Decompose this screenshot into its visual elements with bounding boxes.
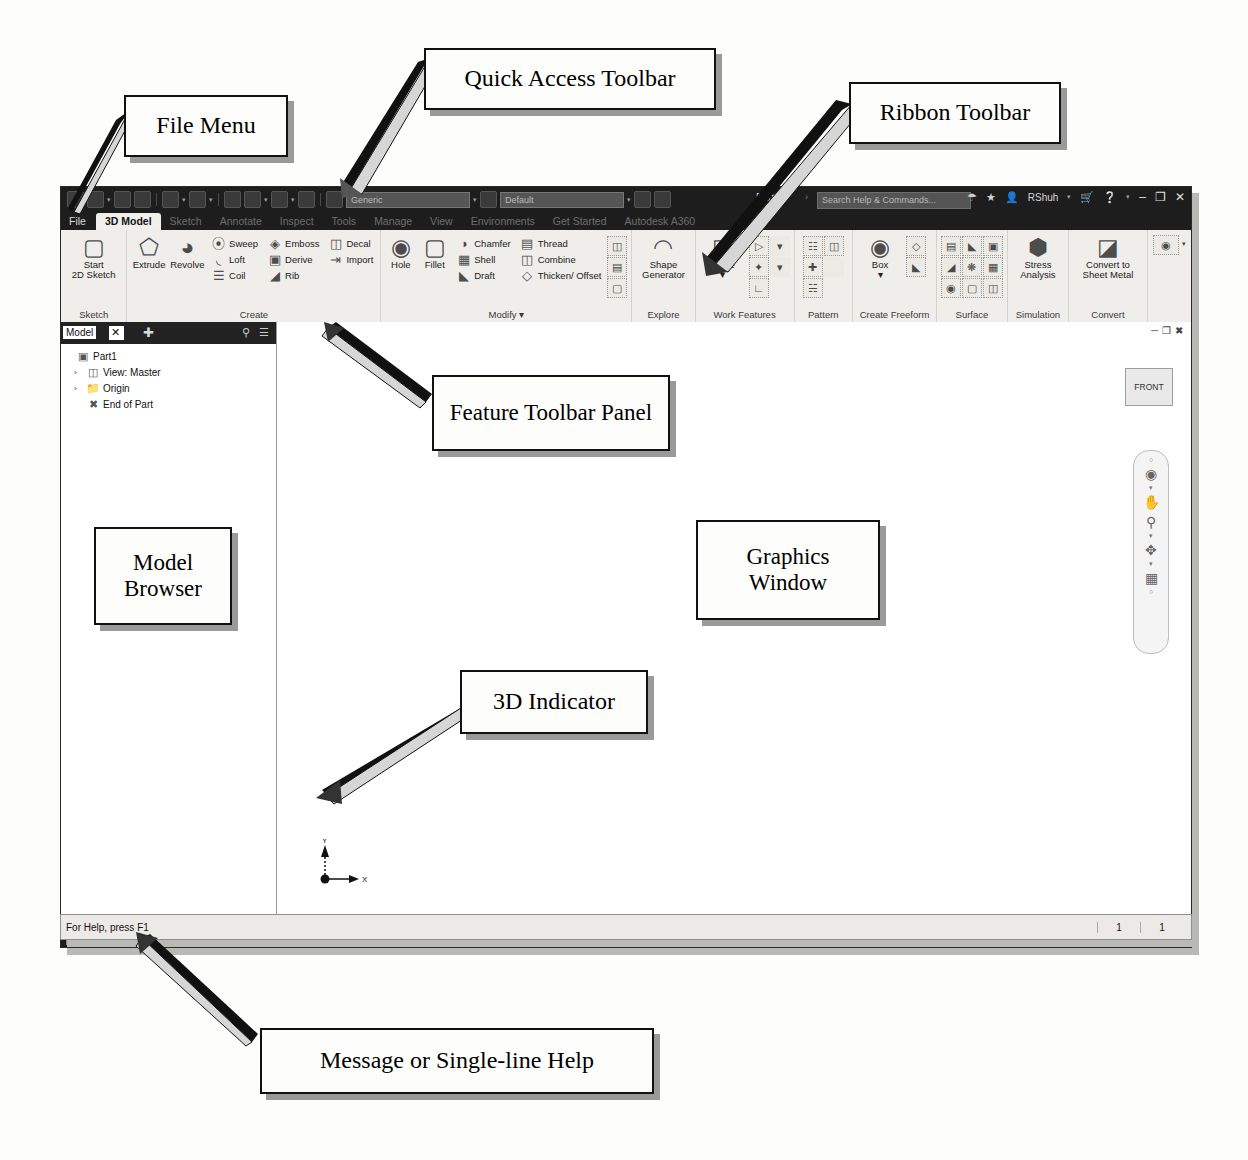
patch-icon[interactable]: ▣ <box>983 236 1003 256</box>
sign-in-icon[interactable]: ☂ <box>967 191 977 204</box>
maximize-button[interactable]: ❐ <box>1155 190 1166 204</box>
maximize-icon[interactable]: ❐ <box>1162 325 1175 336</box>
rib-button[interactable]: ◢ Rib <box>264 268 322 283</box>
orbit-wheel-icon[interactable]: ◉ <box>1145 465 1157 483</box>
trim-icon[interactable]: ❋ <box>962 257 982 277</box>
ruled-surface-icon[interactable]: ▦ <box>983 257 1003 277</box>
tree-item-origin[interactable]: › 📁 Origin <box>64 380 276 396</box>
chevron-down-icon[interactable]: ▾ <box>627 196 631 204</box>
chevron-down-icon[interactable]: ▾ <box>473 196 477 204</box>
chevron-down-icon[interactable]: ▾ <box>1067 193 1071 201</box>
sweep-button[interactable]: ⦿ Sweep <box>208 236 261 251</box>
minimize-button[interactable]: – <box>1139 190 1146 204</box>
undo-icon[interactable] <box>162 191 179 208</box>
tab-manage[interactable]: Manage <box>365 213 421 230</box>
tab-sketch[interactable]: Sketch <box>161 213 211 230</box>
draft-button[interactable]: ◣ Draft <box>453 268 513 283</box>
tab-annotate[interactable]: Annotate <box>211 213 271 230</box>
extrude-button[interactable]: ⬠ Extrude <box>131 233 166 270</box>
return-icon[interactable] <box>271 191 288 208</box>
thicken-offset-button[interactable]: ◇ Thicken/ Offset <box>517 268 605 283</box>
sketch-driven-pattern-icon[interactable]: ☵ <box>803 278 823 298</box>
replace-face-icon[interactable]: ◉ <box>941 278 961 298</box>
close-icon[interactable]: ✖ <box>1175 325 1187 336</box>
chevron-down-icon[interactable]: ▾ <box>1126 193 1130 201</box>
user-name[interactable]: RShuh <box>1028 192 1059 203</box>
tree-expander[interactable]: › <box>74 368 83 377</box>
browser-close-icon[interactable]: ✕ <box>109 326 124 340</box>
navigation-bar[interactable]: ○ ◉ ▾ ✋ ⚲ ▾ ✥ ▾ ▦ ○ <box>1133 450 1169 654</box>
hole-button[interactable]: ◉ Hole <box>385 233 416 270</box>
redo-dropdown-icon[interactable]: ▾ <box>209 196 213 204</box>
appearance-selector[interactable]: Default <box>500 192 624 208</box>
tree-item-view-master[interactable]: › ◫ View: Master <box>64 364 276 380</box>
cart-icon[interactable]: 🛒 <box>1080 191 1094 204</box>
shape-generator-button[interactable]: ◠ Shape Generator <box>637 233 689 281</box>
decal-button[interactable]: ◫ Decal <box>325 236 376 251</box>
fillet-button[interactable]: ▢ Fillet <box>419 233 450 270</box>
chevron-down-icon[interactable]: ▾ <box>1149 485 1153 491</box>
redo-icon[interactable] <box>189 191 206 208</box>
derive-button[interactable]: ▣ Derive <box>264 252 322 267</box>
combine-button[interactable]: ◫ Combine <box>517 252 605 267</box>
clear-appearance-icon[interactable] <box>634 191 651 208</box>
import-button[interactable]: ⇥ Import <box>325 252 376 267</box>
star-icon[interactable]: ★ <box>986 191 996 204</box>
sculpt-icon[interactable]: ◣ <box>962 236 982 256</box>
tab-tools[interactable]: Tools <box>323 213 366 230</box>
tab-view[interactable]: View <box>421 213 462 230</box>
undo-dropdown-icon[interactable]: ▾ <box>182 196 186 204</box>
search-icon[interactable]: ⚲ <box>242 326 250 339</box>
convert-to-sheet-metal-button[interactable]: ◪ Convert to Sheet Metal <box>1073 233 1143 281</box>
restore-icon[interactable]: ─ <box>1151 325 1162 336</box>
tab-get-started[interactable]: Get Started <box>544 213 616 230</box>
ribbon-tab-strip[interactable]: File 3D Model Sketch Annotate Inspect To… <box>61 212 1191 230</box>
coil-button[interactable]: ☰ Coil <box>208 268 261 283</box>
orbit-icon[interactable]: ✥ <box>1145 541 1157 559</box>
direct-edit-icon[interactable]: ▤ <box>607 257 627 277</box>
select-icon[interactable] <box>298 191 315 208</box>
freeform-convert-icon[interactable]: ◣ <box>906 257 926 277</box>
help-icon[interactable]: ❔ <box>1103 191 1117 204</box>
chevron-down-icon[interactable]: ▾ <box>1149 561 1153 567</box>
chevron-down-icon[interactable]: ▾ <box>878 270 883 280</box>
thread-button[interactable]: ▤ Thread <box>517 236 605 251</box>
loft-button[interactable]: ◟ Loft <box>208 252 261 267</box>
look-at-icon[interactable]: ▦ <box>1145 569 1158 587</box>
delete-face-icon[interactable]: ▢ <box>607 278 627 298</box>
chevron-down-icon[interactable]: ▾ <box>291 196 295 204</box>
update-icon[interactable] <box>244 191 261 208</box>
tree-item-part1[interactable]: ▣ Part1 <box>64 348 276 364</box>
ucs-icon[interactable]: ∟ <box>749 278 769 298</box>
browser-add-icon[interactable]: ✚ <box>143 325 154 340</box>
chevron-down-icon[interactable]: ▾ <box>1149 533 1153 539</box>
stress-analysis-button[interactable]: ⬢ Stress Analysis <box>1012 233 1064 281</box>
close-button[interactable]: ✕ <box>1175 190 1185 204</box>
split-icon[interactable]: ◫ <box>607 236 627 256</box>
tree-item-end-of-part[interactable]: ✖ End of Part <box>64 396 276 412</box>
zoom-icon[interactable]: ⚲ <box>1146 513 1156 531</box>
shell-button[interactable]: ▦ Shell <box>453 252 513 267</box>
hamburger-icon[interactable]: ☰ <box>259 326 269 339</box>
start-2d-sketch-button[interactable]: ▢ Start 2D Sketch <box>68 233 120 281</box>
tab-inspect[interactable]: Inspect <box>271 213 323 230</box>
revolve-button[interactable]: ◕ Revolve <box>170 233 205 270</box>
tree-expander[interactable]: › <box>74 384 83 393</box>
chevron-down-icon[interactable]: ▾ <box>1182 240 1186 248</box>
view-cube[interactable]: FRONT <box>1125 368 1173 406</box>
copy-object-icon[interactable]: ◫ <box>983 278 1003 298</box>
adjust-icon[interactable] <box>654 191 671 208</box>
stitch-icon[interactable]: ▤ <box>941 236 961 256</box>
emboss-button[interactable]: ◈ Emboss <box>264 236 322 251</box>
delete-face-s-icon[interactable]: ▢ <box>962 278 982 298</box>
extend-icon[interactable]: ◢ <box>941 257 961 277</box>
chamfer-button[interactable]: ◑ Chamfer <box>453 236 513 251</box>
chevron-down-icon[interactable]: ▾ <box>264 196 268 204</box>
home-icon[interactable] <box>224 191 241 208</box>
appearance-override-icon[interactable]: ◉ <box>1153 235 1179 255</box>
user-icon[interactable]: 👤 <box>1005 191 1019 204</box>
appearance-icon[interactable] <box>480 191 497 208</box>
freeform-plane-icon[interactable]: ◇ <box>906 236 926 256</box>
chevron-down-icon[interactable]: ▾ <box>519 309 524 320</box>
pan-icon[interactable]: ✋ <box>1143 493 1160 511</box>
